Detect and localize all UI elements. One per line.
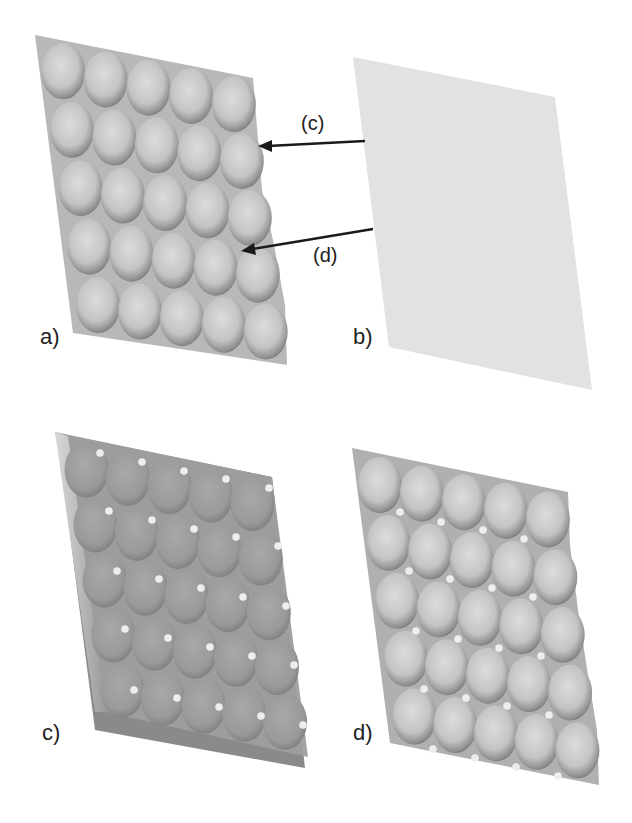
bump [247, 584, 291, 640]
bump-grid-a [41, 43, 288, 359]
panel-label-b: b) [353, 324, 373, 349]
marker-dot [454, 635, 462, 643]
bump [109, 226, 153, 282]
marker-dot [520, 535, 528, 543]
bump [358, 457, 402, 513]
bump [425, 639, 469, 695]
bump [263, 694, 307, 750]
bump [124, 560, 168, 616]
panel-label-d: d) [353, 720, 373, 745]
marker-dot [215, 703, 223, 711]
bump [189, 467, 233, 523]
marker-dot [495, 644, 503, 652]
bump [555, 722, 599, 778]
bump [541, 607, 585, 663]
panel-d [352, 448, 599, 785]
marker-dot [105, 507, 113, 515]
bump [173, 623, 217, 679]
bump [165, 568, 209, 624]
bump [548, 665, 592, 721]
bump [450, 532, 494, 588]
marker-dot [512, 763, 520, 771]
marker-dot [471, 754, 479, 762]
marker-dot [164, 634, 172, 642]
panel-c [55, 432, 308, 768]
bump [458, 590, 502, 646]
bump [59, 160, 103, 216]
arrow-c [258, 140, 365, 152]
bump [115, 505, 159, 561]
bump [126, 60, 170, 116]
marker-dot [130, 686, 138, 694]
panel-a [35, 35, 288, 365]
bump [143, 175, 187, 231]
bump [244, 303, 288, 359]
marker-dot [545, 711, 553, 719]
bump [236, 247, 280, 303]
marker-dot [537, 652, 545, 660]
bump [160, 290, 204, 346]
bump [526, 491, 570, 547]
bump [484, 483, 528, 539]
bump [169, 68, 213, 124]
marker-dot [529, 593, 537, 601]
bump [375, 573, 419, 629]
marker-dot [173, 694, 181, 702]
marker-dot [265, 484, 273, 492]
bump [67, 219, 111, 275]
marker-dot [503, 702, 511, 710]
marker-dot [412, 627, 420, 635]
marker-dot [274, 542, 282, 550]
bump [148, 458, 192, 514]
marker-dot [462, 694, 470, 702]
bump [474, 705, 518, 761]
marker-dot [446, 575, 454, 583]
annotation-c: (c) [301, 112, 324, 134]
marker-dot [437, 518, 445, 526]
bump [132, 615, 176, 671]
bump [533, 549, 577, 605]
bump [194, 240, 238, 296]
marker-dot [190, 525, 198, 533]
bump [228, 190, 272, 246]
marker-dot [282, 602, 290, 610]
bump [202, 297, 246, 353]
marker-dot [206, 643, 214, 651]
bump [466, 648, 510, 704]
bump [92, 110, 136, 166]
bump [366, 515, 410, 571]
bump [220, 133, 264, 189]
panel-b [353, 57, 592, 390]
bump [156, 513, 200, 569]
marker-dot [121, 625, 129, 633]
bump [239, 530, 283, 586]
bump [515, 714, 559, 770]
bump [212, 76, 256, 132]
bump [84, 52, 128, 108]
bump [499, 598, 543, 654]
annotation-d: (d) [313, 244, 337, 266]
bump [91, 607, 135, 663]
marker-dot [420, 685, 428, 693]
panel-label-c: c) [42, 720, 60, 745]
bump [76, 277, 120, 333]
marker-dot [248, 652, 256, 660]
bump [82, 552, 126, 608]
bump [384, 631, 428, 687]
bump [41, 43, 85, 99]
marker-dot [138, 458, 146, 466]
bump [50, 102, 94, 158]
bump [152, 233, 196, 289]
marker-dot [197, 584, 205, 592]
bump [135, 117, 179, 173]
marker-dot [148, 516, 156, 524]
bump [408, 524, 452, 580]
panel-label-a: a) [40, 324, 60, 349]
bump [400, 466, 444, 522]
figure-canvas: a) b) c) d) (c) (d) [0, 0, 632, 823]
marker-dot [488, 584, 496, 592]
marker-dot [405, 567, 413, 575]
marker-dot [479, 526, 487, 534]
bump [392, 689, 436, 745]
bump [101, 168, 145, 224]
